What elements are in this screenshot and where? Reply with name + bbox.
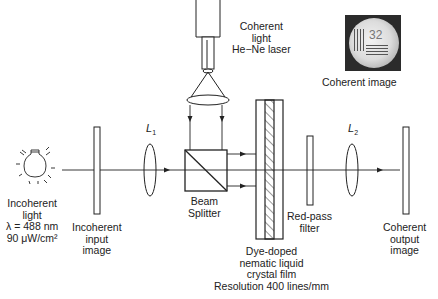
- beam-splitter: [185, 150, 227, 191]
- target-digits: 32: [369, 28, 382, 42]
- vertical-bars: [354, 29, 366, 51]
- light-bulb-icon: [16, 147, 55, 184]
- laser-label: Coherent light He−Ne laser: [232, 21, 291, 56]
- lens-l2-label: L2: [348, 122, 358, 136]
- coherent-image-photo: 32: [345, 15, 401, 71]
- incoherent-input-image-plate: [94, 127, 100, 214]
- he-ne-laser: [196, 0, 220, 73]
- output-image-label: Coherent output image: [383, 222, 426, 257]
- coherent-output-image-plate: [403, 127, 409, 214]
- lens-l1-label: L1: [146, 122, 156, 136]
- source-label: Incoherent light λ = 488 nm 90 μW/cm²: [6, 198, 58, 244]
- red-filter-label: Red-pass filter: [287, 211, 332, 234]
- liquid-crystal-film: [256, 100, 283, 239]
- coherent-image-caption: Coherent image: [322, 77, 397, 89]
- beam-splitter-label: Beam Splitter: [188, 196, 221, 219]
- horizontal-bars: [366, 43, 388, 55]
- red-pass-filter: [307, 136, 313, 205]
- input-image-label: Incoherent input image: [72, 222, 122, 257]
- beam-expander: [187, 72, 229, 105]
- beam-arrow-icons: [188, 116, 225, 122]
- lc-film-label: Dye-doped nematic liquid crystal film Re…: [214, 246, 329, 292]
- coherent-beams: [190, 105, 222, 150]
